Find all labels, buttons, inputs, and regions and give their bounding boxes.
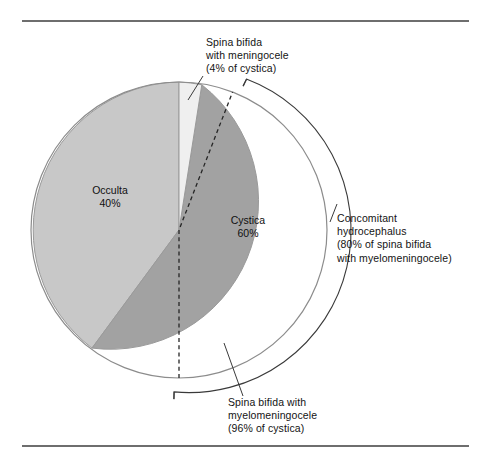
pie-label-occulta: Occulta 40% [70,184,150,211]
annotation-myelomeningocele: Spina bifida with myelomeningocele (96% … [228,396,317,436]
annotation-meningocele: Spina bifida with meningocele (4% of cys… [206,36,289,76]
cystica-bracket-tick-top [243,79,246,86]
annotation-hydrocephalus: Concomitant hydrocephalus (80% of spina … [337,212,452,265]
hydrocephalus-leader-line [330,204,337,222]
pie-label-cystica: Cystica 60% [208,214,288,241]
figure-container: Occulta 40% Cystica 60% Spina bifida wit… [0,0,491,464]
